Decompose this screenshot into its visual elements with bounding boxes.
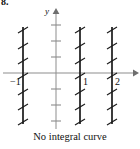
figure-container: 8. y: [0, 0, 140, 149]
x-tick-label-1: 1: [83, 76, 88, 87]
slope-field-plot: y: [0, 0, 140, 149]
x-tick-label-2: 2: [115, 76, 120, 87]
y-axis-arrow-icon: [53, 8, 60, 14]
figure-caption: No integral curve: [0, 131, 140, 143]
x-tick-label-neg1: −1: [10, 76, 21, 87]
y-axis-label: y: [44, 6, 49, 16]
x-axis-arrow-icon: [133, 70, 139, 77]
